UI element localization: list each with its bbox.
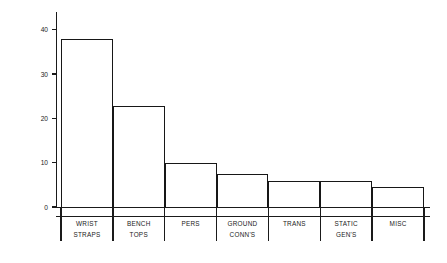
- category-label-line: PERS: [165, 219, 217, 230]
- category-label-line: STATIC: [320, 219, 372, 230]
- category-divider-tick: [60, 208, 61, 216]
- category-divider-tick: [112, 208, 113, 216]
- category-label-line: STRAPS: [61, 230, 113, 241]
- category-label: BENCHTOPS: [113, 219, 165, 240]
- category-divider-tick: [268, 208, 269, 216]
- bar: [268, 181, 320, 207]
- bar: [61, 39, 113, 207]
- bar: [165, 163, 217, 207]
- category-label: GROUNDCONN'S: [217, 219, 269, 240]
- bar: [217, 174, 269, 207]
- category-label: PERS: [165, 219, 217, 230]
- bar: [320, 181, 372, 207]
- category-label-line: CONN'S: [217, 230, 269, 241]
- category-divider-tick: [423, 208, 424, 216]
- category-label: MISC: [372, 219, 424, 230]
- category-label-line: TRANS: [268, 219, 320, 230]
- category-label: WRISTSTRAPS: [61, 219, 113, 240]
- category-label: STATICGEN'S: [320, 219, 372, 240]
- category-label-line: GROUND: [217, 219, 269, 230]
- category-divider-tick: [164, 208, 165, 216]
- category-divider-tick: [216, 208, 217, 216]
- category-divider-tick: [371, 208, 372, 216]
- category-label-line: WRIST: [61, 219, 113, 230]
- bar: [113, 106, 165, 207]
- category-label-line: MISC: [372, 219, 424, 230]
- category-label-line: GEN'S: [320, 230, 372, 241]
- category-divider-tick: [320, 208, 321, 216]
- bar: [372, 187, 424, 207]
- bar-chart: % OF TOTAL DEVIATIONS 010203040 WRISTSTR…: [0, 0, 447, 263]
- category-label: TRANS: [268, 219, 320, 230]
- category-label-line: BENCH: [113, 219, 165, 230]
- category-label-line: TOPS: [113, 230, 165, 241]
